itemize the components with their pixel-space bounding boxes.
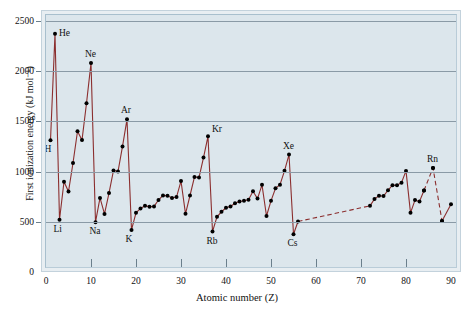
data-point [71, 161, 75, 165]
data-point [422, 188, 426, 192]
x-tick-label-10: 10 [76, 276, 106, 286]
series-line [370, 171, 424, 213]
point-label-Kr: Kr [212, 124, 222, 134]
data-point [179, 179, 183, 183]
data-point [206, 134, 210, 138]
x-tick-label-0: 0 [31, 276, 61, 286]
data-point [233, 201, 237, 205]
y-tick-500 [36, 222, 41, 223]
data-point [418, 199, 422, 203]
data-point [202, 156, 206, 160]
x-tick-label-80: 80 [391, 276, 421, 286]
data-point [431, 166, 435, 170]
x-tick-label-40: 40 [211, 276, 241, 286]
x-tick-70 [361, 259, 362, 267]
x-tick-label-60: 60 [301, 276, 331, 286]
data-point [265, 214, 269, 218]
data-point [251, 189, 255, 193]
data-point [287, 153, 291, 157]
data-point [175, 195, 179, 199]
point-label-Ar: Ar [121, 105, 131, 115]
y-tick-2500 [36, 21, 41, 22]
chart-figure: HHeLiNeNaArKKrRbXeCsRn 05001000150020002… [0, 0, 474, 313]
y-tick-1000 [36, 172, 41, 173]
data-point [62, 180, 66, 184]
data-point [76, 129, 80, 133]
chart-lines [46, 15, 456, 267]
data-point [152, 204, 156, 208]
data-point [247, 198, 251, 202]
data-point [400, 181, 404, 185]
data-point [170, 196, 174, 200]
data-point [242, 199, 246, 203]
data-point [130, 228, 134, 232]
data-point [184, 212, 188, 216]
y-tick-2000 [36, 71, 41, 72]
data-point [215, 215, 219, 219]
y-tick-label-2500: 2500 [0, 16, 34, 26]
data-point [260, 183, 264, 187]
data-point [166, 194, 170, 198]
x-tick-30 [181, 259, 182, 267]
data-point [148, 205, 152, 209]
data-point [157, 198, 161, 202]
point-label-Xe: Xe [283, 141, 294, 151]
data-point [67, 190, 71, 194]
series-line [51, 34, 299, 234]
data-point [269, 199, 273, 203]
x-tick-label-90: 90 [436, 276, 466, 286]
data-point [238, 200, 242, 204]
data-point [107, 191, 111, 195]
data-point [98, 196, 102, 200]
x-tick-40 [226, 259, 227, 267]
data-point [449, 202, 453, 206]
data-point [373, 197, 377, 201]
data-point [386, 188, 390, 192]
point-label-Ne: Ne [85, 49, 96, 59]
data-point [80, 138, 84, 142]
point-label-K: K [126, 234, 133, 244]
x-tick-20 [136, 259, 137, 267]
x-tick-label-30: 30 [166, 276, 196, 286]
y-tick-1500 [36, 121, 41, 122]
x-tick-50 [271, 259, 272, 267]
data-point [395, 183, 399, 187]
data-point [368, 204, 372, 208]
data-point [409, 211, 413, 215]
data-point [278, 183, 282, 187]
data-point [382, 194, 386, 198]
gridline-2000 [46, 71, 456, 72]
data-point [143, 204, 147, 208]
series-line [442, 204, 451, 221]
point-label-Cs: Cs [288, 238, 298, 248]
point-label-H: H [46, 144, 51, 154]
data-point [211, 230, 215, 234]
gridline-1000 [46, 172, 456, 173]
data-point [220, 210, 224, 214]
series-line [298, 206, 370, 222]
data-point [377, 194, 381, 198]
point-label-He: He [59, 28, 70, 38]
point-label-Na: Na [90, 226, 101, 236]
x-tick-label-50: 50 [256, 276, 286, 286]
data-point [89, 61, 93, 65]
gridline-2500 [46, 21, 456, 22]
data-point [391, 183, 395, 187]
y-axis-title: First ionization energy (kJ mol⁻¹) [24, 44, 35, 224]
gridline-500 [46, 222, 456, 223]
data-point [274, 186, 278, 190]
data-point [224, 206, 228, 210]
x-tick-label-70: 70 [346, 276, 376, 286]
data-point [229, 205, 233, 209]
data-point [413, 198, 417, 202]
x-axis-title: Atomic number (Z) [0, 292, 474, 303]
data-point [197, 176, 201, 180]
data-point [188, 194, 192, 198]
y-tick-label-0: 0 [0, 267, 34, 277]
data-point [121, 144, 125, 148]
point-label-Rb: Rb [207, 236, 218, 246]
series-line [424, 168, 442, 221]
data-point [292, 232, 296, 236]
data-point [49, 138, 53, 142]
data-point [103, 212, 107, 216]
